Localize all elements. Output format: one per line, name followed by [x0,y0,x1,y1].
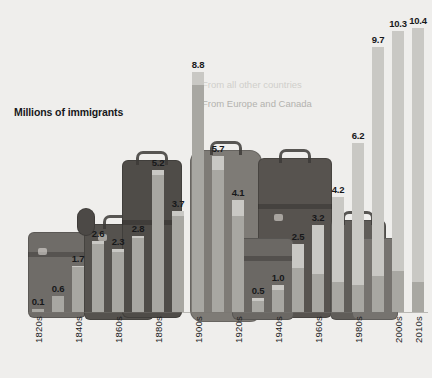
segment-other-countries [332,197,344,282]
segment-other-countries [412,28,424,282]
bar-2010s[interactable]: 10.4 [412,28,424,312]
bar-value-label: 2.6 [92,228,105,239]
bar-1900s[interactable]: 8.8 [192,72,204,312]
x-tick-1880s: 1880s [153,316,164,343]
segment-other-countries [312,225,324,274]
bar-value-label: 2.3 [112,236,125,247]
bar-1960s[interactable]: 3.2 [312,225,324,312]
x-tick-1840s: 1840s [73,316,84,343]
x-axis-baseline [28,312,428,313]
bar-1910s[interactable]: 5.7 [212,156,224,312]
immigration-bar-chart: Millions of immigrants From all other co… [0,0,432,378]
bar-1870s[interactable]: 2.8 [132,236,144,313]
bar-value-label: 9.7 [372,34,385,45]
segment-europe-canada [372,276,384,312]
segment-other-countries [372,47,384,277]
segment-europe-canada [292,268,304,312]
bar-value-label: 8.8 [192,59,205,70]
bar-value-label: 5.7 [212,143,225,154]
bar-1890s[interactable]: 3.7 [172,211,184,312]
bar-value-label: 6.2 [352,130,365,141]
bar-1950s[interactable]: 2.5 [292,244,304,312]
x-tick-2000s: 2000s [393,316,404,343]
bar-1920s[interactable]: 4.1 [232,200,244,312]
bar-value-label: 0.6 [52,283,65,294]
segment-other-countries [212,156,224,170]
segment-europe-canada [332,282,344,312]
bar-value-label: 2.5 [292,231,305,242]
segment-europe-canada [132,238,144,312]
bar-value-label: 5.2 [152,157,165,168]
segment-europe-canada [92,244,104,312]
segment-europe-canada [112,252,124,312]
bar-value-label: 4.1 [232,187,245,198]
bar-1980s[interactable]: 6.2 [352,143,364,312]
bar-value-label: 0.5 [252,285,265,296]
bar-value-label: 3.7 [172,198,185,209]
x-tick-1920s: 1920s [233,316,244,343]
bar-value-label: 2.8 [132,223,145,234]
segment-europe-canada [172,216,184,312]
plot-area: 0.10.61.72.62.32.85.23.78.85.74.10.51.02… [28,6,428,312]
segment-other-countries [352,143,364,285]
x-tick-2010s: 2010s [413,316,424,343]
bar-1880s[interactable]: 5.2 [152,170,164,312]
bar-value-label: 10.3 [389,18,407,29]
segment-other-countries [292,244,304,269]
bar-value-label: 4.2 [332,184,345,195]
x-tick-1820s: 1820s [33,316,44,343]
segment-europe-canada [212,170,224,312]
bar-1940s[interactable]: 1.0 [272,285,284,312]
segment-other-countries [392,31,404,271]
bar-1840s[interactable]: 1.7 [72,266,84,312]
segment-europe-canada [272,290,284,312]
x-tick-1860s: 1860s [113,316,124,343]
segment-other-countries [192,72,204,86]
segment-europe-canada [232,216,244,312]
segment-europe-canada [192,85,204,312]
bar-value-label: 1.0 [272,272,285,283]
segment-europe-canada [312,274,324,312]
x-tick-1940s: 1940s [273,316,284,343]
segment-europe-canada [352,285,364,312]
x-tick-1900s: 1900s [193,316,204,343]
bar-value-label: 0.1 [32,296,45,307]
bar-2000s[interactable]: 10.3 [392,31,404,312]
bar-1930s[interactable]: 0.5 [252,298,264,312]
segment-europe-canada [52,296,64,312]
segment-europe-canada [252,301,264,312]
segment-europe-canada [392,271,404,312]
x-tick-1960s: 1960s [313,316,324,343]
bar-1970s[interactable]: 4.2 [332,197,344,312]
x-tick-1980s: 1980s [353,316,364,343]
segment-europe-canada [412,282,424,312]
bar-1860s[interactable]: 2.3 [112,249,124,312]
segment-other-countries [232,200,244,216]
bar-1830s[interactable]: 0.6 [52,296,64,312]
x-axis-ticks: 1820s1840s1860s1880s1900s1920s1940s1960s… [28,314,428,376]
bar-value-label: 1.7 [72,253,85,264]
bar-value-label: 10.4 [409,15,427,26]
bar-1850s[interactable]: 2.6 [92,241,104,312]
bar-1990s[interactable]: 9.7 [372,47,384,312]
bar-value-label: 3.2 [312,212,325,223]
segment-europe-canada [72,267,84,312]
segment-europe-canada [152,175,164,312]
